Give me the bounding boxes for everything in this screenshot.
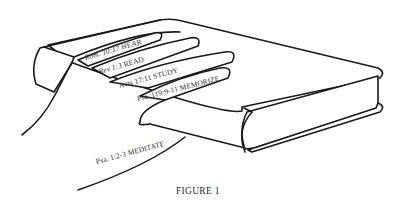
thumb-outline (78, 137, 185, 190)
illustration-drawing (0, 0, 404, 213)
figure-caption: FIGURE 1 (176, 186, 220, 196)
hand-bible-illustration: Rom. 10:17 HEAR Rev 1:3 READ Acts 17:11 … (0, 0, 404, 213)
